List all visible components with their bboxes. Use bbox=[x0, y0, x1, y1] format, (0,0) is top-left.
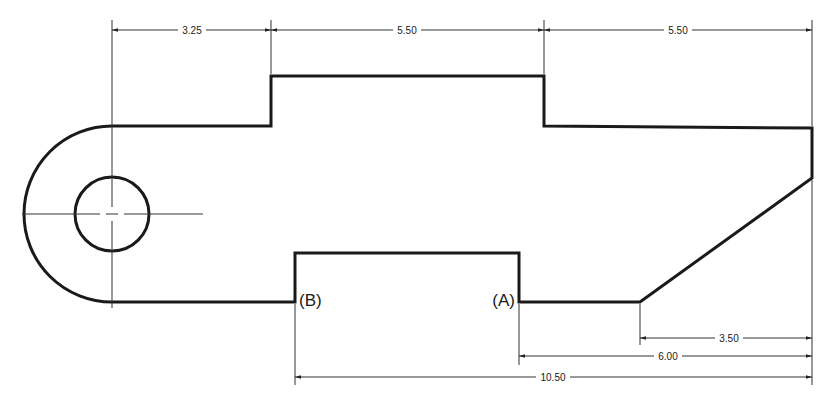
label-a: (A) bbox=[492, 291, 515, 310]
part-profile bbox=[24, 76, 812, 302]
dim-bottom-3-text: 10.50 bbox=[540, 372, 565, 383]
part-outline bbox=[24, 76, 812, 302]
label-b: (B) bbox=[299, 291, 322, 310]
dim-top-1-text: 3.25 bbox=[182, 25, 202, 36]
bottom-dimensions: 3.50 6.00 10.50 bbox=[295, 332, 812, 383]
dim-bottom-2-text: 6.00 bbox=[658, 351, 678, 362]
dim-top-2-text: 5.50 bbox=[397, 25, 417, 36]
engineering-drawing: 3.25 5.50 5.50 3.50 6.00 10.50 (B) (A) bbox=[0, 0, 836, 407]
dim-top-3-text: 5.50 bbox=[668, 25, 688, 36]
dim-bottom-1-text: 3.50 bbox=[719, 333, 739, 344]
top-dimensions: 3.25 5.50 5.50 bbox=[112, 24, 812, 36]
